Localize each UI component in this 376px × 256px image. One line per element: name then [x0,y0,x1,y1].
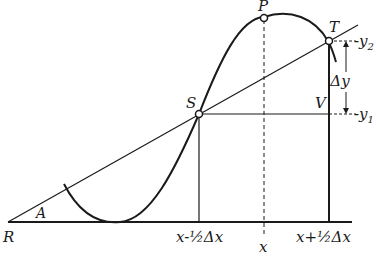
label-y1-main: -y [354,105,368,123]
point-p-marker [261,15,268,22]
label-x-minus: x-½Δx [176,228,224,246]
label-v: V [315,94,328,112]
secant-line [8,25,358,222]
label-y2-main: -y [354,32,368,50]
label-y2-sub: 2 [367,41,374,52]
point-t-marker [326,38,333,45]
label-x-center: x [259,238,268,256]
label-y1-sub: 1 [368,114,374,125]
label-delta-y: Δy [329,72,350,90]
diagram-canvas: R A S T P V x-½Δx x x+½Δx -y2 -y1 Δy [0,0,376,256]
label-y1: -y1 [354,105,374,125]
label-p: P [257,0,269,15]
label-y2: -y2 [354,32,374,52]
label-r: R [2,228,14,246]
label-s: S [186,94,196,112]
label-x-plus: x+½Δx [296,228,351,246]
label-t: T [329,18,340,36]
label-a: A [34,205,46,221]
point-s-marker [196,111,203,118]
